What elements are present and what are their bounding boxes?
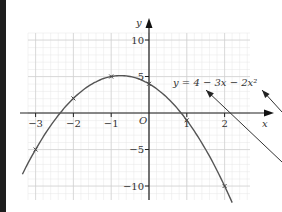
equation-label: y = 4 − 3x − 2x² [172,77,257,88]
parabola-chart: −3−2−112105−5−10 y = 4 − 3x − 2x² y x O [0,0,282,212]
label-arrows [206,90,282,162]
svg-text:−5: −5 [129,144,144,155]
svg-text:−3: −3 [28,118,43,129]
svg-text:−10: −10 [123,181,144,192]
x-axis-label: x [262,118,268,129]
svg-text:2: 2 [221,118,227,129]
y-axis-label: y [135,17,142,28]
svg-text:−1: −1 [104,118,119,129]
svg-text:−2: −2 [66,118,81,129]
origin-label: O [139,115,147,126]
svg-text:10: 10 [131,35,144,46]
